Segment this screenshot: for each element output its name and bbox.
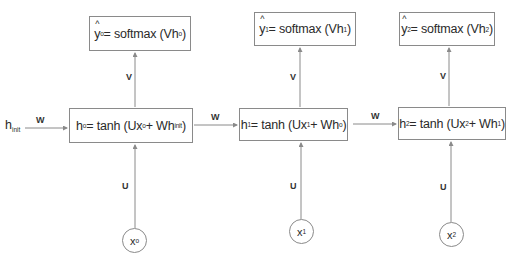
output-box-0: yo= softmax (Vho)	[89, 16, 191, 51]
input-node-1: x1	[289, 219, 314, 244]
x-subscript: 1	[302, 228, 306, 235]
softmax-expr: = softmax (Vh	[411, 22, 486, 36]
y-hat-symbol: y	[94, 27, 100, 41]
h-symbol: h	[399, 117, 406, 131]
hidden-box-0: ho= tanh (Uxo + Whinit)	[69, 108, 193, 143]
close-paren: )	[501, 117, 505, 131]
recurrent-term: + Wh	[146, 119, 175, 133]
v-label-2: V	[440, 71, 446, 81]
u-label-0: U	[122, 181, 129, 191]
close-paren: )	[342, 118, 346, 132]
hidden-box-1: h1= tanh (Ux1 + Who)	[239, 108, 348, 141]
y-hat-symbol: y	[401, 22, 407, 36]
u-label-1: U	[290, 181, 297, 191]
input-node-0: xo	[122, 228, 147, 253]
h-symbol: h	[241, 118, 248, 132]
w-label-1-2: W	[371, 111, 380, 121]
v-label-0: V	[126, 72, 132, 82]
w-label-init: W	[36, 115, 45, 125]
input-node-2: x2	[439, 222, 464, 247]
output-box-2: y2= softmax (Vh2)	[399, 12, 495, 46]
close-paren: )	[347, 22, 351, 36]
softmax-expr: = softmax (Vh	[269, 22, 344, 36]
close-paren: )	[182, 119, 186, 133]
softmax-expr: = softmax (Vh	[104, 27, 179, 41]
recurrent-term: + Wh	[469, 117, 498, 131]
w-label-0-1: W	[211, 112, 220, 122]
x-subscript: o	[135, 237, 139, 244]
recurrent-term: + Wh	[310, 118, 339, 132]
output-box-1: y1= softmax (Vh1)	[254, 12, 356, 46]
h-init-subscript: init	[12, 126, 20, 133]
u-label-2: U	[440, 182, 447, 192]
h-symbol: h	[76, 119, 83, 133]
x-subscript: 2	[452, 231, 456, 238]
hidden-box-2: h2= tanh (Ux2 + Wh1)	[398, 107, 506, 140]
close-paren: )	[182, 27, 186, 41]
close-paren: )	[489, 22, 493, 36]
y-hat-symbol: y	[259, 22, 265, 36]
h-init-symbol: h	[5, 118, 12, 132]
initial-hidden-state: hinit	[5, 118, 20, 133]
tanh-expr: = tanh (Ux	[251, 118, 307, 132]
v-label-1: V	[290, 72, 296, 82]
prev-h-subscript: init	[174, 122, 182, 129]
tanh-expr: = tanh (Ux	[86, 119, 142, 133]
tanh-expr: = tanh (Ux	[409, 117, 465, 131]
